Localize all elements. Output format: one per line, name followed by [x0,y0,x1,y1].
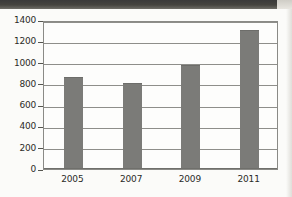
scan-artifact-top-band [0,0,277,9]
y-axis-tick [38,127,43,128]
y-axis-tick [38,148,43,149]
y-axis-tick-label: 200 [3,144,36,153]
gridline [44,22,277,23]
x-axis-tick-label: 2005 [52,175,92,184]
y-axis-tick-label: 600 [3,101,36,110]
y-axis-tick [38,21,43,22]
bar [181,65,200,169]
y-axis-tick-label: 1400 [3,16,36,25]
x-axis-labels: 2005200720092011 [43,175,278,189]
bar [123,83,142,169]
y-axis-tick-label: 1200 [3,37,36,46]
bar [240,30,259,169]
bar-chart: 0200400600800100012001400 20052007200920… [0,9,292,197]
y-axis-tick [38,42,43,43]
x-axis-tick-label: 2011 [229,175,269,184]
y-axis-tick-label: 1000 [3,59,36,68]
y-axis-tick-label: 800 [3,80,36,89]
y-axis-tick [38,84,43,85]
page-background: 0200400600800100012001400 20052007200920… [0,0,292,197]
bar [64,77,83,169]
y-axis-tick-label: 400 [3,122,36,131]
y-axis-tick-label: 0 [3,165,36,174]
y-axis-labels: 0200400600800100012001400 [0,9,36,197]
y-axis-tick [38,63,43,64]
plot-area [43,21,278,170]
y-axis-tick [38,106,43,107]
y-axis-tick [38,170,43,171]
x-axis-tick-label: 2007 [111,175,151,184]
x-axis-tick-label: 2009 [170,175,210,184]
scan-artifact-top-band-tail [277,0,292,9]
x-axis-baseline [44,168,277,169]
